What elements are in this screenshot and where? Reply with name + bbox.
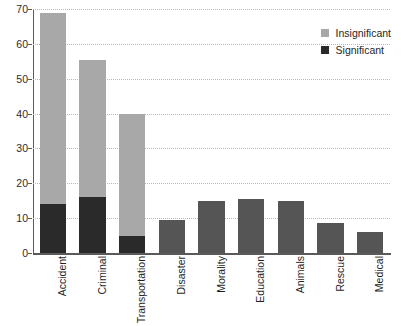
bar-segment-total [278, 201, 304, 253]
y-tick-mark [28, 183, 32, 184]
y-tick-label: 20 [2, 178, 28, 189]
x-tick-label: Transportation [136, 256, 147, 323]
y-tick-label: 50 [2, 74, 28, 85]
bar-rescue [317, 223, 343, 253]
bar-segment-total [317, 223, 343, 253]
bar-animals [278, 201, 304, 253]
y-tick-label: 30 [2, 143, 28, 154]
bar-segment-total [159, 220, 185, 253]
bar-medical [357, 232, 383, 253]
x-tick-label: Morality [216, 256, 227, 293]
x-tick-label: Medical [374, 256, 385, 292]
y-tick-label: 40 [2, 109, 28, 120]
y-tick-label: 70 [2, 4, 28, 15]
x-tick-label: Criminal [97, 256, 108, 295]
x-tick-label: Education [255, 256, 266, 303]
legend-swatch-icon [321, 29, 329, 37]
y-tick-label: 0 [2, 248, 28, 259]
x-axis-labels: AccidentCriminalTransportationDisasterMo… [33, 256, 390, 326]
y-tick-mark [28, 253, 32, 254]
bar-segment-insignificant [40, 13, 66, 205]
x-tick-label: Accident [57, 256, 68, 296]
x-tick-label: Animals [295, 256, 306, 293]
legend-item: Insignificant [321, 28, 391, 39]
x-tick-label: Rescue [335, 256, 346, 292]
bar-segment-total [357, 232, 383, 253]
legend-label: Significant [336, 45, 384, 56]
y-tick-mark [28, 9, 32, 10]
bar-segment-insignificant [119, 114, 145, 236]
bar-disaster [159, 220, 185, 253]
bar-education [238, 199, 264, 253]
y-tick-mark [28, 114, 32, 115]
bar-segment-significant [119, 236, 145, 253]
y-tick-label: 10 [2, 213, 28, 224]
bar-chart: 010203040506070 AccidentCriminalTranspor… [0, 0, 401, 326]
y-tick-mark [28, 218, 32, 219]
x-tick-label: Disaster [176, 256, 187, 295]
bar-morality [198, 201, 224, 253]
bar-criminal [79, 60, 105, 253]
chart-legend: InsignificantSignificant [321, 28, 391, 55]
legend-label: Insignificant [336, 28, 391, 39]
bar-segment-total [238, 199, 264, 253]
bar-segment-significant [40, 204, 66, 253]
y-tick-label: 60 [2, 39, 28, 50]
y-axis-ticks: 010203040506070 [0, 0, 28, 254]
y-tick-mark [28, 79, 32, 80]
y-tick-mark [28, 44, 32, 45]
legend-item: Significant [321, 45, 391, 56]
x-axis-line [33, 253, 391, 255]
bar-accident [40, 13, 66, 254]
legend-swatch-icon [321, 46, 329, 54]
y-tick-mark [28, 148, 32, 149]
bar-segment-insignificant [79, 60, 105, 198]
bar-segment-total [198, 201, 224, 253]
bar-segment-significant [79, 197, 105, 253]
bar-transportation [119, 114, 145, 253]
